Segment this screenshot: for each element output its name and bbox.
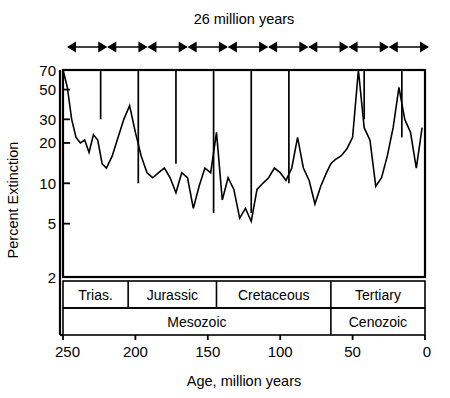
x-tick-label: 150 xyxy=(195,343,220,360)
era-band-label: Cenozoic xyxy=(349,314,407,330)
extinction-periodicity-figure: 26 million years 705030201052 2502001501… xyxy=(0,0,450,398)
y-tick-label: 20 xyxy=(39,134,56,151)
y-tick-label: 2 xyxy=(48,269,56,286)
period-band-label: Tertiary xyxy=(355,287,401,303)
period-band-label: Trias. xyxy=(78,287,112,303)
y-tick-label: 50 xyxy=(39,81,56,98)
y-tick-label: 10 xyxy=(39,175,56,192)
era-band-label: Mesozoic xyxy=(167,314,226,330)
y-tick-label: 30 xyxy=(39,111,56,128)
x-tick-label: 200 xyxy=(123,343,148,360)
chart-canvas: 26 million years 705030201052 2502001501… xyxy=(0,0,450,398)
chart-background xyxy=(0,0,450,398)
y-tick-label: 5 xyxy=(48,215,56,232)
y-tick-label: 70 xyxy=(39,62,56,79)
y-axis-title: Percent Extinction xyxy=(5,142,21,259)
cycle-period-label: 26 million years xyxy=(194,11,295,27)
x-tick-label: 50 xyxy=(344,343,361,360)
period-band-label: Cretaceous xyxy=(238,287,310,303)
period-band-label: Jurassic xyxy=(147,287,198,303)
x-tick-label: 250 xyxy=(55,343,80,360)
x-tick-label: 0 xyxy=(423,343,431,360)
x-axis-title: Age, million years xyxy=(187,373,301,389)
x-tick-label: 100 xyxy=(268,343,293,360)
